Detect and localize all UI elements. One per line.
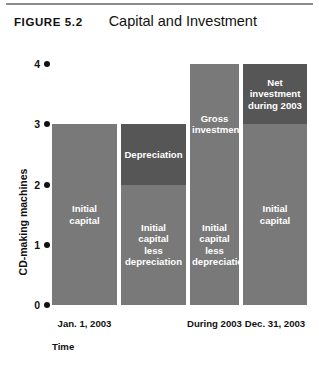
y-axis-tick: 4	[26, 58, 50, 70]
stacked-bar: Initial capital	[52, 124, 117, 305]
x-axis-title: Time	[52, 341, 74, 352]
y-axis-tick-dot	[44, 61, 50, 67]
y-axis-tick: 3	[26, 118, 50, 130]
bar-segment-label: Initial capital	[54, 203, 115, 226]
y-axis-tick-dot	[44, 302, 50, 308]
stacked-bar: Gross investmentInitial capital less dep…	[190, 64, 239, 305]
chart-plot-area: CD-making machines 01234 Initial capital…	[0, 0, 319, 365]
bar-segment-label: Depreciation	[123, 149, 184, 161]
x-axis-tick-label: Dec. 31, 2003	[215, 318, 319, 329]
figure-container: FIGURE 5.2 Capital and Investment CD-mak…	[0, 0, 319, 365]
y-axis-title: CD-making machines	[17, 152, 29, 292]
bar-segment-label: Initial capital	[245, 203, 305, 226]
y-axis-tick-label: 0	[34, 299, 40, 311]
y-axis-tick: 0	[26, 299, 50, 311]
y-axis-tick-dot	[44, 242, 50, 248]
bar-segment: Initial capital	[243, 124, 307, 305]
bar-segment: Initial capital less depreciation	[190, 185, 239, 306]
x-axis-tick-label: Jan. 1, 2003	[25, 318, 145, 329]
bar-segment-label: Initial capital less depreciation	[192, 222, 237, 268]
bar-segment-label: Initial capital less depreciation	[123, 222, 184, 268]
stacked-bar: DepreciationInitial capital less depreci…	[121, 124, 186, 305]
y-axis-tick-dot	[44, 182, 50, 188]
stacked-bar: Net investment during 2003Initial capita…	[243, 64, 307, 305]
bar-segment: Net investment during 2003	[243, 64, 307, 124]
bar-segment: Gross investment	[190, 64, 239, 185]
bar-segment-label: Net investment during 2003	[245, 77, 305, 112]
bar-segment: Initial capital less depreciation	[121, 185, 186, 306]
bar-segment-label: Gross investment	[192, 113, 237, 136]
y-axis-tick-label: 3	[34, 118, 40, 130]
y-axis-tick-label: 2	[34, 179, 40, 191]
y-axis-tick-label: 4	[34, 58, 40, 70]
bar-segment: Depreciation	[121, 124, 186, 184]
y-axis-tick-dot	[44, 121, 50, 127]
bar-segment: Initial capital	[52, 124, 117, 305]
y-axis-tick: 1	[26, 239, 50, 251]
y-axis-tick-label: 1	[34, 239, 40, 251]
y-axis-tick: 2	[26, 179, 50, 191]
